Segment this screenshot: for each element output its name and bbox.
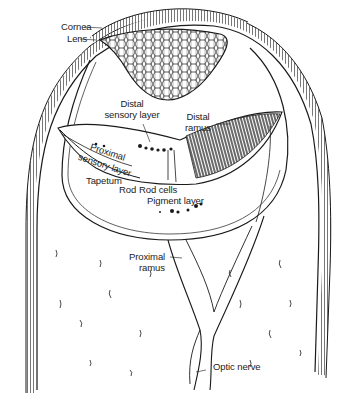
- label-pigment-layer: Pigment layer: [147, 196, 204, 206]
- label-proximal-ramus-1: Proximal: [122, 252, 172, 262]
- label-optic-nerve: Optic nerve: [213, 362, 260, 372]
- label-proximal-ramus-2: ramus: [127, 263, 177, 273]
- label-distal-ramus-2: ramus: [178, 123, 218, 133]
- label-distal-sensory-layer-1: Distal: [102, 99, 162, 109]
- label-rod-cells: Rod cells: [139, 185, 177, 195]
- lens: [100, 29, 227, 100]
- tissue-texture: [56, 250, 301, 376]
- label-cornea: Cornea: [61, 22, 92, 32]
- label-rod: Rod: [119, 185, 136, 195]
- label-distal-ramus-1: Distal: [178, 112, 218, 122]
- label-distal-sensory-layer-2: sensory layer: [92, 110, 172, 120]
- label-lens: Lens: [67, 34, 87, 44]
- label-tapetum: Tapetum: [86, 176, 122, 186]
